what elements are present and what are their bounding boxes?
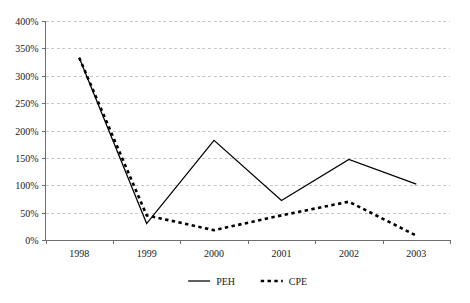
series-line-cpe [79,58,416,236]
line-chart: 0%50%100%150%200%250%300%350%400% 199819… [0,0,470,303]
x-axis-tick-label: 2001 [271,248,291,259]
gridlines [46,22,451,241]
x-axis-tick-label: 2002 [339,248,359,259]
y-axis-ticks [42,22,46,241]
series-line-peh [79,58,416,224]
x-axis-tick-label: 2003 [406,248,426,259]
y-axis-tick-label: 150% [15,153,38,164]
x-axis-tick-labels: 199819992000200120022003 [69,248,426,259]
x-axis-tick-label: 1999 [137,248,157,259]
x-axis-tick-label: 2000 [204,248,224,259]
y-axis-tick-label: 350% [15,43,38,54]
y-axis-tick-label: 100% [15,180,38,191]
y-axis-tick-label: 250% [15,98,38,109]
legend-label-peh: PEH [216,276,235,287]
y-axis-tick-label: 50% [20,208,38,219]
y-axis-tick-label: 200% [15,126,38,137]
legend-label-cpe: CPE [289,276,307,287]
chart-container: 0%50%100%150%200%250%300%350%400% 199819… [0,0,470,303]
y-axis-tick-label: 300% [15,71,38,82]
x-axis-tick-label: 1998 [69,248,89,259]
y-axis-tick-label: 400% [15,16,38,27]
chart-legend: PEHCPE [188,276,307,287]
y-axis-tick-label: 0% [25,235,38,246]
y-axis-tick-labels: 0%50%100%150%200%250%300%350%400% [15,16,38,246]
